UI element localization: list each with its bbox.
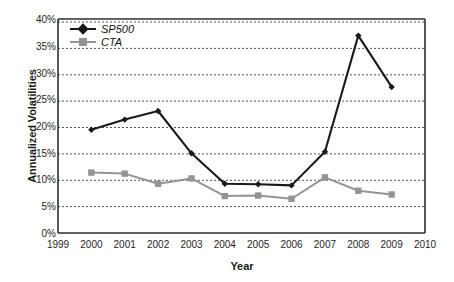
- series-line: [91, 173, 391, 199]
- gridlines: [58, 22, 425, 207]
- data-point: [322, 174, 328, 180]
- chart-container: Annualized Volatilities 0% 5% 10% 15% 20…: [0, 0, 454, 282]
- data-point: [388, 191, 394, 197]
- data-point: [255, 192, 261, 198]
- series-cta: [88, 169, 395, 202]
- data-point: [188, 175, 194, 181]
- series-sp500: [88, 32, 395, 188]
- legend-marker-sp500: [70, 23, 96, 34]
- legend-entry-sp500[interactable]: SP500: [70, 22, 180, 35]
- data-point: [88, 127, 94, 133]
- legend-label-sp500: SP500: [101, 23, 134, 35]
- data-point: [122, 170, 128, 176]
- data-point: [288, 196, 294, 202]
- axes-frame: [58, 19, 425, 233]
- x-axis-tick-labels: 1999 2000 2001 2002 2003 2004 2005 2006 …: [0, 239, 454, 255]
- legend-marker-cta: [70, 36, 96, 47]
- data-point: [155, 181, 161, 187]
- legend-entry-cta[interactable]: CTA: [70, 35, 180, 48]
- legend: SP500 CTA: [70, 22, 180, 48]
- data-point: [222, 193, 228, 199]
- series-line: [91, 36, 391, 186]
- data-point: [122, 116, 128, 122]
- data-point: [355, 188, 361, 194]
- x-axis-title: Year: [58, 260, 426, 272]
- series-layer: [88, 32, 395, 202]
- legend-label-cta: CTA: [101, 36, 122, 48]
- data-point: [255, 181, 261, 187]
- x-tick-2010: 2010: [405, 239, 445, 250]
- data-point: [88, 169, 94, 175]
